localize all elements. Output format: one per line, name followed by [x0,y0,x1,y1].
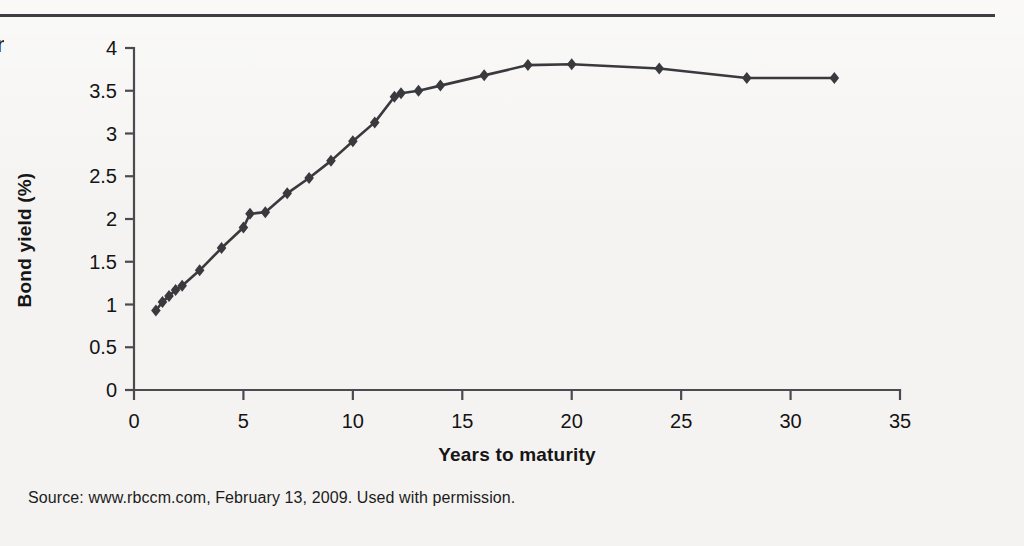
source-note: Source: www.rbccm.com, February 13, 2009… [28,489,515,507]
figure-root: n Bond yield (%) 00.511.522.533.54 05101… [0,0,1024,546]
series-group [151,58,839,316]
svg-text:1: 1 [106,294,117,316]
svg-text:10: 10 [342,410,364,432]
svg-text:2: 2 [106,208,117,230]
svg-text:5: 5 [238,410,249,432]
svg-text:4: 4 [106,37,117,59]
svg-text:3: 3 [106,123,117,145]
svg-text:15: 15 [451,410,473,432]
svg-text:1.5: 1.5 [89,251,117,273]
y-axis: 00.511.522.533.54 [89,37,134,401]
svg-text:35: 35 [889,410,911,432]
svg-text:0: 0 [106,379,117,401]
svg-text:3.5: 3.5 [89,80,117,102]
svg-text:25: 25 [670,410,692,432]
x-axis: 05101520253035 [128,390,911,432]
svg-text:0: 0 [128,410,139,432]
svg-text:2.5: 2.5 [89,165,117,187]
x-axis-title: Years to maturity [134,444,900,466]
svg-text:30: 30 [779,410,801,432]
svg-text:0.5: 0.5 [89,336,117,358]
svg-text:20: 20 [561,410,583,432]
